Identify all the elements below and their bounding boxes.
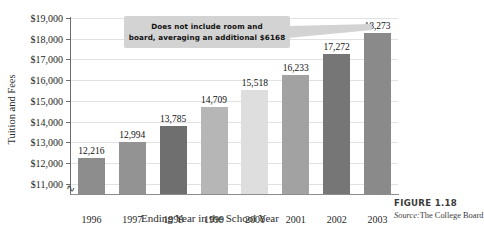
bar-2001[interactable]: 16,233	[282, 75, 309, 194]
bar-value-label: 16,233	[283, 63, 309, 73]
y-axis-tick	[66, 184, 71, 185]
x-axis-tick-label-2003: 2003	[368, 214, 388, 225]
x-axis-tick-label-2002: 2002	[327, 214, 347, 225]
y-axis-title: Tuition and Fees	[6, 50, 17, 170]
bar-2000[interactable]: 15,518	[241, 90, 268, 194]
y-axis-tick-label: $12,000	[31, 157, 64, 168]
y-axis-tick	[66, 163, 71, 164]
x-axis-tick-label-1996: 1996	[81, 214, 101, 225]
cropped-title	[60, 0, 360, 7]
bar-2002[interactable]: 17,272	[323, 54, 350, 194]
bar-value-label: 13,785	[160, 114, 186, 124]
figure-label: FIGURE 1.18	[394, 198, 484, 208]
figure-source-prefix: Source:	[394, 211, 420, 220]
bar-value-label: 14,709	[201, 95, 227, 105]
y-axis-tick	[66, 80, 71, 81]
y-axis-tick	[66, 122, 71, 123]
callout-pointer-icon	[288, 24, 372, 46]
x-axis-tick-label-1998: 1998	[163, 214, 183, 225]
y-axis-tick	[66, 18, 71, 19]
x-axis-tick-label-1999: 1999	[204, 214, 224, 225]
x-axis-line	[70, 194, 399, 195]
bar-1997[interactable]: 12,994	[119, 142, 146, 194]
bar-1999[interactable]: 14,709	[201, 107, 228, 194]
bar-value-label: 12,994	[119, 130, 145, 140]
y-axis-tick-label: $18,000	[31, 33, 64, 44]
bar-2003[interactable]: 18,273	[364, 33, 391, 194]
figure-caption: FIGURE 1.18 Source:The College Board	[394, 198, 484, 220]
x-axis-tick-label-1997: 1997	[122, 214, 142, 225]
x-axis-tick-label-2001: 2001	[286, 214, 306, 225]
y-axis-tick-label: $16,000	[31, 75, 64, 86]
x-axis-tick-label-2000: 2000	[245, 214, 265, 225]
bar-1996[interactable]: 12,216	[78, 158, 105, 194]
bar-value-label: 15,518	[242, 78, 268, 88]
y-axis-tick-label: $17,000	[31, 54, 64, 65]
y-axis-tick-label: $13,000	[31, 137, 64, 148]
callout-annotation: Does not include room and board, averagi…	[124, 16, 290, 48]
chart-figure: Tuition and Fees Ending Year in the Scho…	[0, 0, 484, 238]
bar-value-label: 12,216	[78, 146, 104, 156]
y-axis-tick-label: $19,000	[31, 13, 64, 24]
callout-line-1: Does not include room and	[128, 21, 286, 32]
y-axis-tick	[66, 39, 71, 40]
figure-source-value: The College Board	[420, 211, 484, 220]
y-axis-tick-label: $14,000	[31, 116, 64, 127]
y-axis-tick-label: $11,000	[31, 178, 63, 189]
figure-source: Source:The College Board	[394, 211, 484, 220]
bar-1998[interactable]: 13,785	[160, 126, 187, 194]
y-axis-tick-label: $15,000	[31, 95, 64, 106]
y-axis-tick	[66, 59, 71, 60]
callout-line-2: board, averaging an additional $6168	[128, 32, 286, 43]
y-axis-tick	[66, 101, 71, 102]
y-axis-tick	[66, 142, 71, 143]
